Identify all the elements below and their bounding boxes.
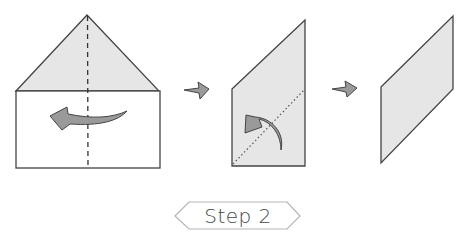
- next-arrow-icon: [332, 81, 357, 97]
- rectangle-base: [16, 91, 160, 168]
- trapezoid-paper: [232, 20, 305, 166]
- figure-parallelogram: [381, 16, 453, 163]
- figure-house: [16, 15, 160, 168]
- next-arrow-icon: [184, 82, 209, 99]
- parallelogram-paper: [381, 16, 453, 163]
- figure-trapezoid: [232, 20, 305, 166]
- dashed-fold-line: [88, 16, 89, 168]
- step-label: Step 2: [178, 200, 298, 232]
